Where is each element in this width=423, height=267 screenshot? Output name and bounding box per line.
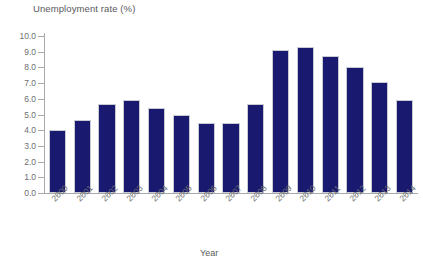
x-axis-tick — [206, 194, 207, 197]
bar — [173, 115, 190, 194]
unemployment-rate-bar-chart: Unemployment rate (%) 10.09.08.07.06.05.… — [0, 0, 423, 267]
y-axis-tick — [38, 36, 45, 37]
y-axis-tick — [38, 52, 45, 53]
x-axis-tick — [380, 194, 381, 197]
y-axis-tick-label: 3.0 — [6, 142, 36, 151]
x-axis-tick — [305, 194, 306, 197]
bar — [272, 50, 289, 193]
y-axis-tick-label: 7.0 — [6, 79, 36, 88]
x-axis-tick — [355, 194, 356, 197]
bar — [297, 47, 314, 193]
bar — [148, 108, 165, 193]
x-axis-tick — [281, 194, 282, 197]
y-axis-tick-label: 10.0 — [6, 32, 36, 41]
y-axis-tick — [38, 162, 45, 163]
y-axis-tick-labels: 10.09.08.07.06.05.04.03.02.01.00.0 — [3, 0, 36, 267]
y-axis-tick — [38, 130, 45, 131]
y-axis-tick-label: 8.0 — [6, 63, 36, 72]
x-axis-tick — [231, 194, 232, 197]
y-axis-tick-label: 4.0 — [6, 126, 36, 135]
bar — [396, 100, 413, 193]
y-axis-tick — [38, 177, 45, 178]
y-axis-tick-label: 9.0 — [6, 48, 36, 57]
bar — [98, 104, 115, 193]
x-axis-tick — [256, 194, 257, 197]
x-axis-tick — [132, 194, 133, 197]
x-axis-tick — [330, 194, 331, 197]
y-axis-tick-label: 0.0 — [6, 189, 36, 198]
y-axis-tick-label: 1.0 — [6, 173, 36, 182]
plot-area — [45, 36, 417, 193]
y-axis-tick — [38, 67, 45, 68]
x-axis-tick — [181, 194, 182, 197]
x-axis-tick — [405, 194, 406, 197]
y-axis-title: Unemployment rate (%) — [33, 3, 135, 14]
x-axis-tick — [157, 194, 158, 197]
bar — [123, 100, 140, 193]
bar — [346, 67, 363, 193]
bar — [247, 104, 264, 193]
y-axis-tick-label: 5.0 — [6, 111, 36, 120]
x-axis-tick — [107, 194, 108, 197]
bar — [371, 82, 388, 193]
y-axis-tick — [38, 99, 45, 100]
y-axis-tick — [38, 146, 45, 147]
y-axis-tick — [38, 193, 45, 194]
bar — [322, 56, 339, 193]
x-axis-title: Year — [200, 248, 218, 258]
y-axis-tick-label: 6.0 — [6, 95, 36, 104]
y-axis-tick — [38, 83, 45, 84]
y-axis-tick-label: 2.0 — [6, 158, 36, 167]
x-axis-tick — [57, 194, 58, 197]
bar — [74, 120, 91, 193]
x-axis-tick — [82, 194, 83, 197]
y-axis-tick — [38, 115, 45, 116]
